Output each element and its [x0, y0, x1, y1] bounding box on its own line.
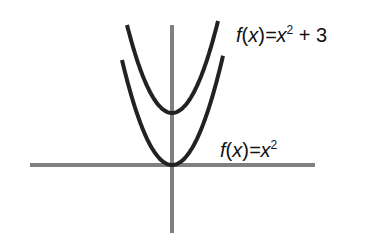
func-var: x [232, 139, 242, 161]
func-exp: 2 [271, 138, 278, 152]
base-parabola-label: f(x)=x2 [220, 139, 277, 160]
func-name: f [236, 24, 242, 46]
func-eq: =x [265, 24, 287, 46]
func-eq: =x [249, 139, 271, 161]
func-tail: + 3 [293, 24, 327, 46]
shifted-parabola-label: f(x)=x2 + 3 [236, 24, 327, 45]
func-var: x [248, 24, 258, 46]
func-name: f [220, 139, 226, 161]
